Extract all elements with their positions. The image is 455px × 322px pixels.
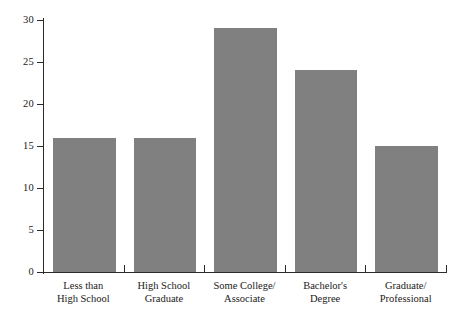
y-axis-tick-label: 20 xyxy=(8,99,34,110)
x-axis-category-label-line: Graduate xyxy=(124,292,205,305)
bar[interactable] xyxy=(375,146,437,272)
x-axis-category-label: Graduate/Professional xyxy=(365,279,446,305)
bar[interactable] xyxy=(53,138,115,272)
y-axis-tick-label: 15 xyxy=(8,141,34,152)
y-axis-tick-label: 0 xyxy=(8,267,34,278)
bar[interactable] xyxy=(214,28,276,272)
x-axis-category-label-line: High School xyxy=(43,292,124,305)
x-axis-category-label: Some College/Associate xyxy=(204,279,285,305)
y-axis-tick-label: 5 xyxy=(8,225,34,236)
bar[interactable] xyxy=(295,70,357,272)
y-axis-tick-label: 30 xyxy=(8,15,34,26)
x-axis-category-label-line: Less than xyxy=(63,280,103,291)
x-axis-category-label-line: Bachelor's xyxy=(303,280,347,291)
x-axis-category-label-line: Professional xyxy=(365,292,446,305)
x-axis-category-label: Bachelor'sDegree xyxy=(285,279,366,305)
y-axis-tick-label: 25 xyxy=(8,57,34,68)
x-axis-category-label-line: Graduate/ xyxy=(385,280,426,291)
bar-chart: 051015202530 Less thanHigh SchoolHigh Sc… xyxy=(0,0,455,322)
x-axis-category-label: Less thanHigh School xyxy=(43,279,124,305)
x-axis-category-label-line: High School xyxy=(137,280,190,291)
x-axis-category-label-line: Degree xyxy=(285,292,366,305)
y-axis-tick xyxy=(37,188,44,189)
y-axis-tick xyxy=(37,62,44,63)
x-axis-category-label-line: Associate xyxy=(204,292,285,305)
x-axis-category-label-line: Some College/ xyxy=(213,280,275,291)
y-axis-tick xyxy=(37,146,44,147)
bar[interactable] xyxy=(134,138,196,272)
y-axis-tick-label: 10 xyxy=(8,183,34,194)
plot-area xyxy=(44,20,447,272)
y-axis-tick xyxy=(37,20,44,21)
x-axis-category-label: High SchoolGraduate xyxy=(124,279,205,305)
x-axis-line xyxy=(43,272,447,273)
y-axis-tick xyxy=(37,230,44,231)
y-axis-tick xyxy=(37,104,44,105)
